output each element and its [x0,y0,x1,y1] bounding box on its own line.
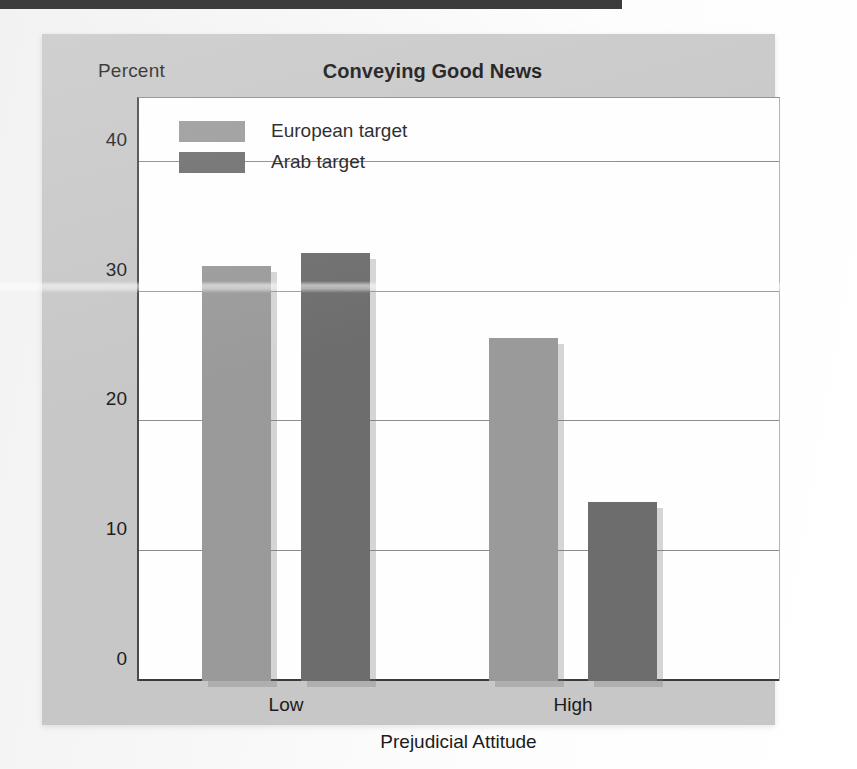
legend-swatch-icon [179,152,245,173]
scan-top-band [0,0,622,9]
y-axis-tick-label: 0 [116,648,127,670]
bar [489,338,558,681]
chart-legend: European targetArab target [179,120,407,182]
plot-area: 010203040 European targetArab target Low… [137,97,780,681]
x-axis-title: Prejudicial Attitude [137,731,780,753]
y-axis-tick-label: 30 [106,259,127,281]
legend-item: Arab target [179,151,407,173]
y-axis-tick-label: 20 [106,388,127,410]
legend-label: Arab target [271,151,365,173]
legend-label: European target [271,120,407,142]
bar-body [301,253,370,681]
legend-swatch-icon [179,121,245,142]
bar [202,266,271,681]
x-axis-tick-label: High [553,694,592,716]
bar-body [588,502,657,681]
y-axis-tick-label: 10 [106,518,127,540]
chart-title: Conveying Good News [42,60,775,83]
y-axis-tick-label: 40 [106,129,127,151]
bar-body [202,266,271,681]
bar [588,502,657,681]
figure-panel: Percent Conveying Good News 010203040 Eu… [42,34,775,725]
x-axis-tick-label: Low [269,694,304,716]
bar-body [489,338,558,681]
legend-item: European target [179,120,407,142]
bar [301,253,370,681]
